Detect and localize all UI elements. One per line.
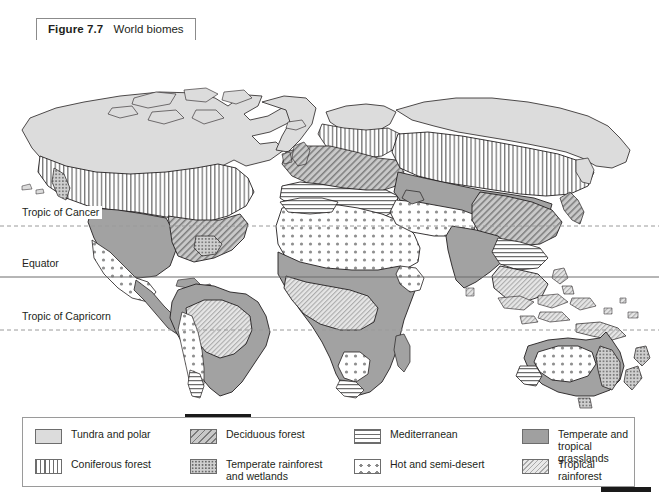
legend-item-tropical-rainforest: Tropical rainforest <box>522 458 634 482</box>
figure-caption-box: Figure 7.7 World biomes <box>36 18 196 42</box>
legend-label: Tundra and polar <box>71 428 151 440</box>
temperate-and-tropical-grasslands-swatch <box>522 429 549 444</box>
legend-item-hot-and-semi-desert: Hot and semi-desert <box>354 458 485 474</box>
legend-item-mediterranean: Mediterranean <box>354 428 458 444</box>
map-legend: Tundra and polar Deciduous forest Medite… <box>22 417 635 487</box>
deciduous-forest-swatch <box>190 429 217 444</box>
mediterranean-swatch <box>354 429 381 444</box>
tasmania <box>578 398 592 408</box>
figure-title: World biomes <box>114 23 184 35</box>
north-africa-mediterranean <box>280 198 338 214</box>
sri-lanka <box>466 288 474 296</box>
legend-label: Deciduous forest <box>226 428 305 440</box>
page-artifact-bottom <box>601 487 651 492</box>
legend-item-coniferous-forest: Coniferous forest <box>35 458 151 474</box>
hot-and-semi-desert-swatch <box>354 459 381 474</box>
legend-item-deciduous-forest: Deciduous forest <box>190 428 305 444</box>
legend-label: Temperate rainforest and wetlands <box>226 458 322 482</box>
legend-item-tundra-and-polar: Tundra and polar <box>35 428 151 444</box>
tropic-of-capricorn-label: Tropic of Capricorn <box>22 310 114 323</box>
legend-item-temperate-rainforest-and-wetlands: Temperate rainforest and wetlands <box>190 458 322 482</box>
legend-label: Mediterranean <box>390 428 458 440</box>
equator-label: Equator <box>22 257 62 270</box>
legend-label: Coniferous forest <box>71 458 151 470</box>
tropical-rainforest-swatch <box>522 459 549 474</box>
figure-number: Figure 7.7 <box>48 23 103 35</box>
tropic-of-cancer-label: Tropic of Cancer <box>22 206 102 219</box>
map-svg <box>0 40 659 412</box>
coniferous-forest-swatch <box>35 459 62 474</box>
temperate-rainforest-and-wetlands-swatch <box>190 459 217 474</box>
tundra-and-polar-swatch <box>35 429 62 444</box>
world-biomes-map <box>0 40 659 412</box>
legend-label: Hot and semi-desert <box>390 458 485 470</box>
legend-label: Tropical rainforest <box>558 458 634 482</box>
